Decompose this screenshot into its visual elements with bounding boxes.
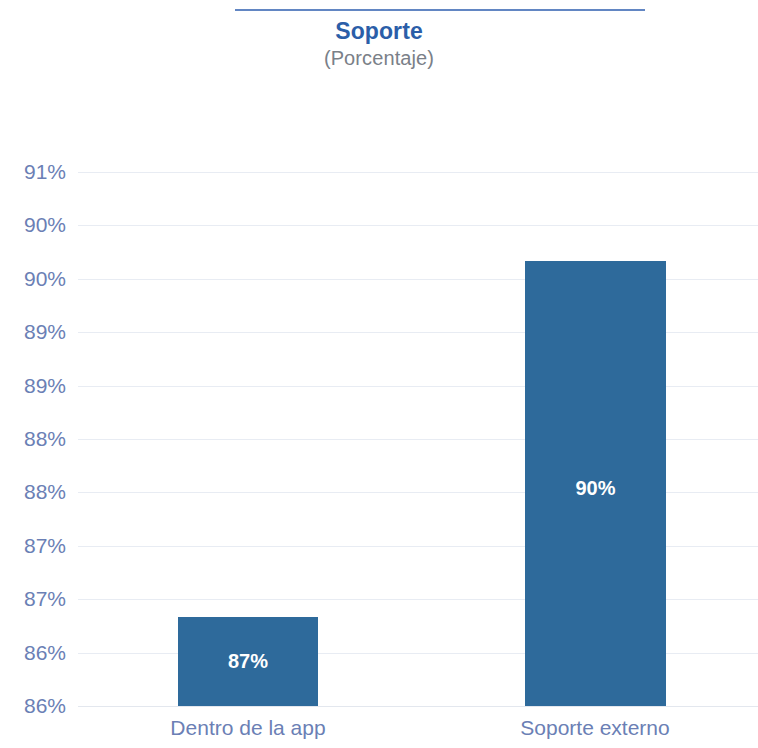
x-axis-category-label: Soporte externo [520,716,669,740]
y-axis-tick-label: 90% [0,267,66,291]
y-axis-tick-label: 89% [0,374,66,398]
y-axis-tick-label: 87% [0,587,66,611]
y-axis-tick-label: 87% [0,534,66,558]
gridline [78,706,758,707]
x-axis-category-label: Dentro de la app [170,716,325,740]
y-axis-tick-label: 88% [0,480,66,504]
y-axis-tick-label: 88% [0,427,66,451]
header-rule [235,9,645,11]
y-axis-tick-label: 86% [0,641,66,665]
gridline [78,172,758,173]
chart-subtitle: (Porcentaje) [0,48,758,68]
plot-area: 87%90% [78,172,758,706]
bar[interactable]: 90% [525,261,666,706]
bar-value-label: 90% [525,477,666,500]
y-axis-tick-label: 89% [0,320,66,344]
bar[interactable]: 87% [178,617,318,706]
y-axis-tick-label: 86% [0,694,66,718]
page-title: Soporte [0,20,758,43]
y-axis-tick-label: 90% [0,213,66,237]
bar-value-label: 87% [178,650,318,673]
chart-header: Soporte (Porcentaje) [0,20,758,68]
support-percentage-bar-chart: Soporte (Porcentaje) 87%90% 91%90%90%89%… [0,0,758,748]
y-axis-tick-label: 91% [0,160,66,184]
gridline [78,225,758,226]
